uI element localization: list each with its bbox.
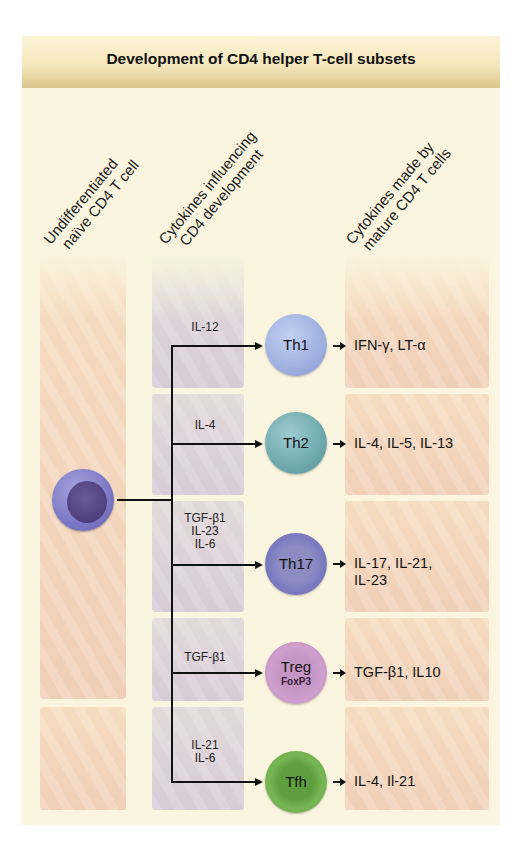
tfh-cell: Tfh	[265, 751, 327, 813]
arrowhead-icon	[255, 778, 263, 786]
arrowhead-icon	[255, 342, 263, 350]
arrowhead-icon	[255, 561, 263, 569]
th1-cell: Th1	[265, 314, 327, 376]
cytokine-label: IL-12	[165, 321, 245, 334]
cell-label: Treg	[281, 659, 311, 675]
inducing-cytokines-th1: IL-12	[165, 321, 245, 334]
arrowhead-icon	[340, 440, 346, 448]
output-cytokines-box	[345, 707, 489, 810]
branch-arrow-th2	[171, 443, 256, 445]
cytokine-label: IL-6	[165, 538, 245, 551]
cytokine-label: IL-6	[165, 752, 245, 765]
inducing-cytokines-th2: IL-4	[165, 419, 245, 432]
cell-label: Th2	[283, 435, 309, 451]
inducing-cytokines-tfh: IL-21 IL-6	[165, 739, 245, 765]
branch-arrow-th1	[171, 345, 256, 347]
cytokine-label: TGF-β1	[165, 651, 245, 664]
naive-connector-line	[117, 499, 172, 501]
inducing-cytokines-th17: TGF-β1 IL-23 IL-6	[165, 512, 245, 551]
arrowhead-icon	[340, 778, 346, 786]
foxp3-marker-label: FoxP3	[281, 676, 311, 688]
cell-label: Th17	[279, 556, 313, 572]
cytokine-label: IFN-γ, LT-α	[354, 337, 426, 354]
cytokine-label: IL-4, IL-5, IL-13	[354, 435, 453, 452]
cytokine-label: IL-23	[354, 572, 432, 589]
treg-cell: Treg FoxP3	[265, 642, 327, 704]
cell-label: Tfh	[285, 774, 307, 790]
arrowhead-icon	[340, 560, 346, 568]
title-banner: Development of CD4 helper T-cell subsets	[22, 36, 500, 88]
arrowhead-icon	[255, 440, 263, 448]
output-cytokines-th2: IL-4, IL-5, IL-13	[354, 435, 453, 452]
output-cytokines-treg: TGF-β1, IL10	[354, 664, 441, 681]
cytokine-label: IL-4, Il-21	[354, 773, 415, 790]
output-cytokines-box	[345, 618, 489, 701]
naive-column-box	[40, 707, 126, 810]
output-cytokines-th1: IFN-γ, LT-α	[354, 337, 426, 354]
branch-arrow-tfh	[171, 781, 256, 783]
output-cytokines-tfh: IL-4, Il-21	[354, 773, 415, 790]
inducing-cytokines-box	[152, 250, 244, 388]
branch-arrow-th17	[171, 564, 256, 566]
output-cytokines-th17: IL-17, IL-21, IL-23	[354, 555, 432, 589]
naive-cell-nucleus	[67, 481, 107, 523]
output-cytokines-box	[345, 250, 489, 388]
th2-cell: Th2	[265, 412, 327, 474]
arrowhead-icon	[340, 669, 346, 677]
th17-cell: Th17	[265, 533, 327, 595]
arrowhead-icon	[340, 342, 346, 350]
inducing-cytokines-treg: TGF-β1	[165, 651, 245, 664]
naive-cd4-t-cell	[52, 469, 114, 531]
cytokine-label: IL-17, IL-21,	[354, 555, 432, 572]
cytokine-label: IL-4	[165, 419, 245, 432]
diagram-title: Development of CD4 helper T-cell subsets	[22, 50, 500, 68]
cytokine-label: TGF-β1, IL10	[354, 664, 441, 681]
arrowhead-icon	[255, 669, 263, 677]
branch-arrow-treg	[171, 672, 256, 674]
cell-label: Th1	[283, 337, 309, 353]
